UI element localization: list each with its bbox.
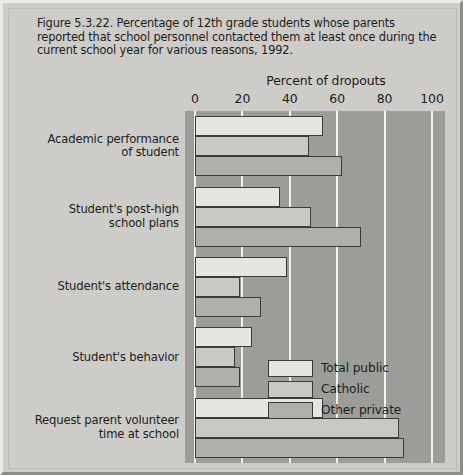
y-category-label-1: Student's post-highschool plans	[19, 203, 179, 230]
bar-3-2	[195, 367, 240, 387]
y-category-label-0: Academic performanceof student	[19, 133, 179, 160]
y-category-label-line: Student's attendance	[19, 280, 179, 293]
bar-2-0	[195, 257, 287, 277]
chart-legend: Total publicCatholicOther private	[268, 358, 401, 421]
y-axis-category-labels: Academic performanceof studentStudent's …	[19, 111, 183, 463]
y-category-label-line: Student's post-high	[19, 203, 179, 216]
y-category-label-line: Academic performance	[19, 133, 179, 146]
figure-inner-panel: Figure 5.3.22. Percentage of 12th grade …	[8, 8, 457, 469]
bar-3-0	[195, 327, 252, 347]
x-tick-label-80: 80	[377, 91, 393, 106]
legend-swatch-0	[268, 360, 313, 377]
x-tick-label-0: 0	[191, 91, 199, 106]
bar-1-0	[195, 187, 280, 207]
bar-chart: Percent of dropouts 020406080100 Academi…	[19, 67, 455, 467]
figure-page: Figure 5.3.22. Percentage of 12th grade …	[0, 0, 463, 475]
bar-2-2	[195, 297, 261, 317]
legend-item-0: Total public	[268, 358, 401, 378]
gridline-100	[431, 111, 433, 463]
figure-caption: Figure 5.3.22. Percentage of 12th grade …	[37, 17, 437, 58]
y-category-label-2: Student's attendance	[19, 280, 179, 293]
y-category-label-line: time at school	[19, 428, 179, 441]
y-category-label-line: Student's behavior	[19, 351, 179, 364]
legend-swatch-1	[268, 381, 313, 398]
legend-label-2: Other private	[321, 403, 401, 417]
bar-0-1	[195, 136, 309, 156]
y-category-label-4: Request parent volunteertime at school	[19, 414, 179, 441]
x-axis-tick-labels: 020406080100	[19, 91, 455, 109]
bar-3-1	[195, 347, 235, 367]
bar-4-2	[195, 438, 404, 458]
legend-label-0: Total public	[321, 361, 389, 375]
legend-item-1: Catholic	[268, 379, 401, 399]
x-tick-label-20: 20	[235, 91, 251, 106]
bar-0-2	[195, 156, 342, 176]
y-category-label-line: of student	[19, 146, 179, 159]
legend-swatch-2	[268, 402, 313, 419]
x-tick-label-40: 40	[282, 91, 298, 106]
y-category-label-line: school plans	[19, 217, 179, 230]
x-tick-label-100: 100	[420, 91, 444, 106]
y-category-label-line: Request parent volunteer	[19, 414, 179, 427]
legend-label-1: Catholic	[321, 382, 370, 396]
x-tick-label-60: 60	[329, 91, 345, 106]
bar-2-1	[195, 277, 240, 297]
bar-1-2	[195, 227, 361, 247]
legend-item-2: Other private	[268, 400, 401, 420]
bar-0-0	[195, 116, 323, 136]
y-category-label-3: Student's behavior	[19, 351, 179, 364]
bar-1-1	[195, 207, 311, 227]
x-axis-title: Percent of dropouts	[195, 73, 457, 88]
